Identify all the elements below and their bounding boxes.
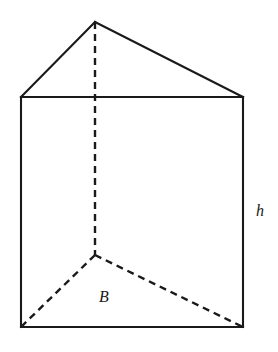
top-right-slant-edge bbox=[95, 22, 243, 97]
hidden-base-right-edge bbox=[95, 255, 243, 327]
solid-edge-group bbox=[21, 22, 243, 327]
hidden-edge-group bbox=[21, 22, 243, 327]
height-label: h bbox=[256, 202, 264, 219]
hidden-base-left-edge bbox=[21, 255, 95, 327]
triangular-prism-diagram: h B bbox=[0, 0, 278, 352]
base-label: B bbox=[99, 288, 109, 305]
top-left-slant-edge bbox=[21, 22, 95, 97]
prism-figure: h B bbox=[0, 0, 278, 352]
